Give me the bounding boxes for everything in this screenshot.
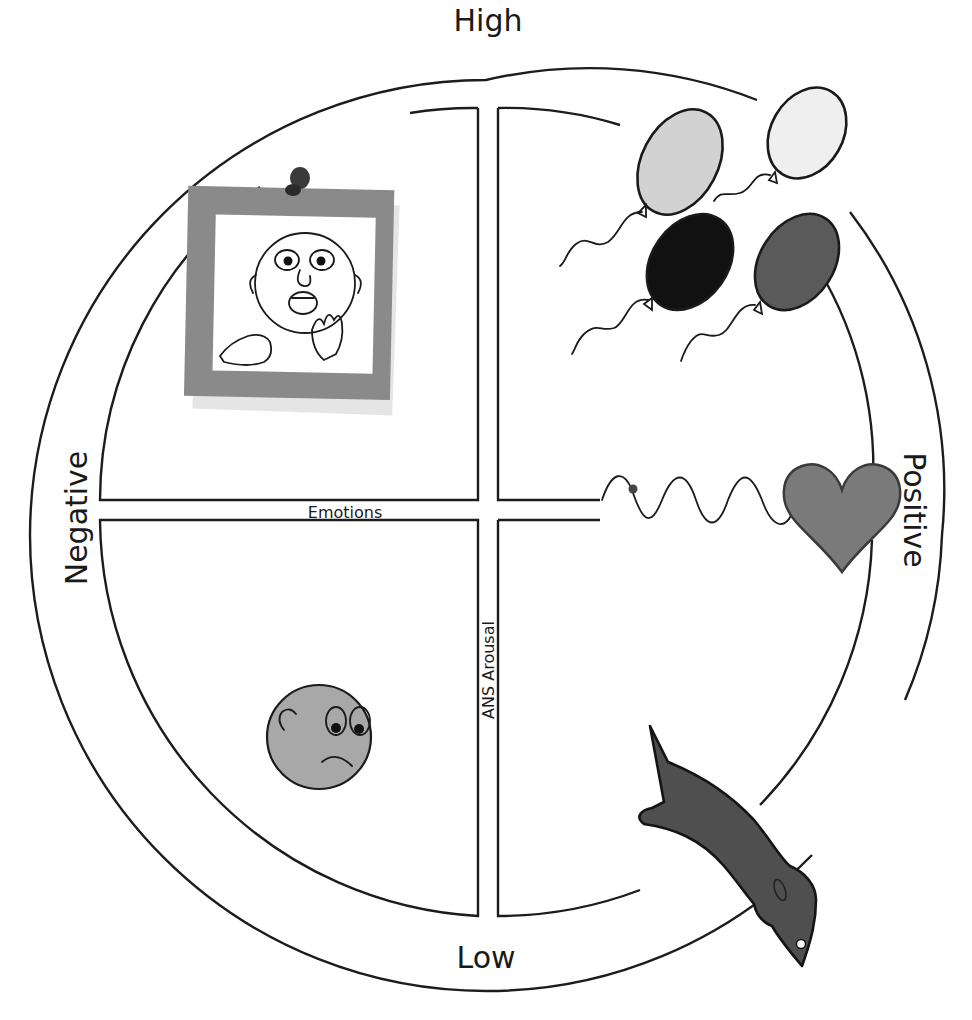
label-positive: Positive bbox=[897, 452, 932, 568]
dead-fish-icon bbox=[639, 726, 816, 966]
label-low: Low bbox=[456, 940, 515, 975]
axis-label-arousal: ANS Arousal bbox=[479, 621, 498, 719]
label-high: High bbox=[454, 3, 523, 38]
axis-label-emotions: Emotions bbox=[308, 503, 382, 522]
label-negative: Negative bbox=[59, 451, 94, 586]
sad-face-icon bbox=[267, 685, 371, 789]
heartbeat-heart-icon bbox=[602, 464, 900, 572]
emotion-circumplex-diagram: High Low Negative Positive Emotions ANS … bbox=[0, 0, 972, 1020]
frightened-face-note-icon bbox=[184, 167, 400, 415]
balloons-icon bbox=[560, 73, 862, 361]
